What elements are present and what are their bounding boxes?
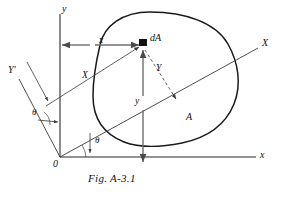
x-distance-label: x (99, 36, 103, 46)
Y-dimension-line (145, 50, 176, 99)
theta-lower-arc (82, 145, 86, 157)
Y-distance-label: Y (156, 64, 161, 74)
X-distance-label: X (82, 71, 88, 81)
y-axis-label: y (62, 4, 66, 14)
x-axis-label: x (260, 150, 264, 160)
origin-label: 0 (53, 159, 58, 169)
Y-prime-angle-arrow (27, 62, 48, 101)
y-distance-label: y (135, 97, 139, 107)
area-element-marker (139, 39, 147, 46)
diagram-canvas (0, 0, 284, 198)
figure-caption: Fig. A-3.1 (88, 172, 136, 184)
X-axis-label: X (262, 38, 268, 48)
theta-upper-label: θ (32, 108, 36, 117)
theta-lower-label: θ (95, 136, 99, 145)
area-outline (93, 12, 238, 146)
figure-diagram: y x X Y' 0 x y X Y θ θ dA A Fig. A-3.1 (0, 0, 284, 198)
theta-upper-arc (44, 112, 50, 125)
Y-prime-axis-line (19, 79, 60, 157)
area-element-label: dA (150, 33, 161, 43)
area-region-label: A (186, 112, 192, 122)
Y-prime-axis-label: Y' (8, 65, 16, 75)
